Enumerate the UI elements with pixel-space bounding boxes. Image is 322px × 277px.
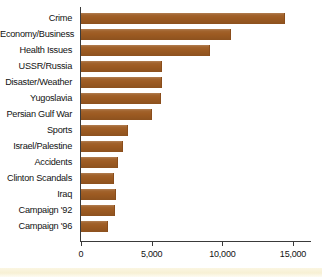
bar-chart: CrimeEconomy/BusinessHealth IssuesUSSR/R…	[0, 0, 322, 277]
category-label: Campaign '96	[0, 218, 76, 234]
bar	[81, 189, 116, 200]
bar	[81, 13, 285, 24]
category-label: Campaign '92	[0, 202, 76, 218]
x-tick-label: 5,000	[141, 249, 163, 259]
category-axis-labels: CrimeEconomy/BusinessHealth IssuesUSSR/R…	[0, 10, 76, 234]
x-axis-line	[81, 241, 311, 242]
x-tick-label: 10,000	[209, 249, 235, 259]
bar	[81, 29, 231, 40]
bar-row	[81, 42, 322, 58]
bar	[81, 141, 123, 152]
x-tick-mark	[293, 242, 294, 246]
bar-row	[81, 58, 322, 74]
bar-row	[81, 74, 322, 90]
bar	[81, 61, 162, 72]
bar-row	[81, 218, 322, 234]
x-tick-mark	[81, 242, 82, 246]
category-label: Iraq	[0, 186, 76, 202]
category-label: USSR/Russia	[0, 58, 76, 74]
bar-series	[81, 10, 322, 234]
category-label: Accidents	[0, 154, 76, 170]
bar	[81, 125, 128, 136]
x-tick-mark	[152, 242, 153, 246]
bar	[81, 77, 162, 88]
bar	[81, 109, 152, 120]
x-tick-label: 0	[79, 249, 84, 259]
bar-row	[81, 170, 322, 186]
category-label: Yugoslavia	[0, 90, 76, 106]
bar-row	[81, 10, 322, 26]
x-tick-label: 15,000	[280, 249, 306, 259]
bar-row	[81, 154, 322, 170]
bar-row	[81, 202, 322, 218]
plot-area: CrimeEconomy/BusinessHealth IssuesUSSR/R…	[0, 0, 322, 250]
bar	[81, 221, 108, 232]
category-label: Disaster/Weather	[0, 74, 76, 90]
category-label: Health Issues	[0, 42, 76, 58]
bar	[81, 205, 115, 216]
bar-row	[81, 90, 322, 106]
bar-row	[81, 138, 322, 154]
category-label: Crime	[0, 10, 76, 26]
bar-row	[81, 122, 322, 138]
category-label: Israel/Palestine	[0, 138, 76, 154]
bar	[81, 173, 114, 184]
scan-artifact-band	[0, 268, 322, 277]
bar	[81, 157, 118, 168]
bar-row	[81, 26, 322, 42]
bar-row	[81, 186, 322, 202]
category-label: Sports	[0, 122, 76, 138]
bar	[81, 93, 161, 104]
bar	[81, 45, 210, 56]
category-label: Persian Gulf War	[0, 106, 76, 122]
x-tick-mark	[222, 242, 223, 246]
bar-row	[81, 106, 322, 122]
category-label: Economy/Business	[0, 26, 76, 42]
y-axis-line	[80, 7, 81, 242]
category-label: Clinton Scandals	[0, 170, 76, 186]
